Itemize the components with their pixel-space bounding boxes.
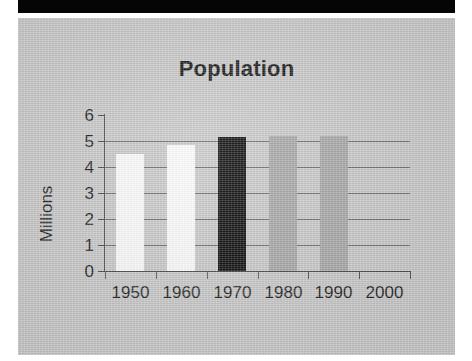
y-axis-tick (98, 167, 105, 168)
x-axis-tick (156, 271, 157, 279)
x-axis-tick (410, 271, 411, 279)
bar-1970 (218, 137, 246, 271)
bar-1990 (320, 136, 348, 271)
x-axis-tick-label: 1970 (207, 284, 258, 301)
y-axis-title-text: Millions (37, 179, 57, 249)
x-axis-tick (105, 271, 106, 279)
x-axis-tick (258, 271, 259, 279)
y-axis-tick-label: 5 (70, 133, 94, 150)
y-axis-tick (98, 219, 105, 220)
y-axis-tick (98, 245, 105, 246)
gridline (105, 245, 410, 246)
bar-1980 (269, 136, 297, 271)
page-top-black-band (18, 0, 455, 13)
y-axis-tick-label: 4 (70, 159, 94, 176)
x-axis-tick-label: 2000 (359, 284, 410, 301)
chart-panel: Population Millions 6543210 195019601970… (18, 18, 455, 355)
x-axis-tick-labels: 195019601970198019902000 (105, 284, 410, 308)
y-axis-title: Millions (36, 168, 58, 258)
y-axis-tick (98, 141, 105, 142)
gridline (105, 219, 410, 220)
scanned-page: Population Millions 6543210 195019601970… (0, 0, 472, 361)
y-axis-tick-label: 2 (70, 211, 94, 228)
x-axis-tick (308, 271, 309, 279)
gridline (105, 193, 410, 194)
x-axis-tick-label: 1960 (156, 284, 207, 301)
bar-1950 (116, 154, 144, 271)
x-axis-tick-label: 1950 (105, 284, 156, 301)
y-axis-tick-label: 0 (70, 263, 94, 280)
x-axis-tick-label: 1990 (308, 284, 359, 301)
x-axis-tick (207, 271, 208, 279)
y-axis-tick (98, 115, 105, 116)
x-axis-tick (359, 271, 360, 279)
y-axis-tick-label: 6 (70, 107, 94, 124)
plot-area (105, 115, 410, 271)
y-axis-tick-label: 3 (70, 185, 94, 202)
y-axis-tick (98, 193, 105, 194)
y-axis-tick (98, 271, 105, 272)
bar-1960 (167, 145, 195, 271)
y-axis-tick-label: 1 (70, 237, 94, 254)
gridline (105, 167, 410, 168)
y-axis-tick-labels: 6543210 (66, 18, 94, 355)
gridline (105, 141, 410, 142)
x-axis-tick-label: 1980 (258, 284, 309, 301)
